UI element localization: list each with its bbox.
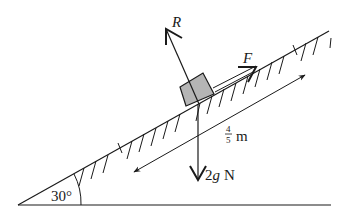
applied-force: F (213, 50, 256, 92)
angle-label: 30° (51, 188, 72, 204)
inclined-plane-diagram: 30° 4 5 m R F 2gN (0, 0, 339, 214)
distance-label: 4 5 m (225, 124, 248, 145)
svg-text:2gN: 2gN (205, 167, 235, 183)
svg-text:4: 4 (226, 124, 231, 134)
incline-surface (18, 31, 329, 205)
svg-text:5: 5 (226, 135, 231, 145)
svg-text:R: R (171, 14, 181, 30)
svg-text:F: F (242, 50, 253, 66)
svg-text:m: m (236, 128, 248, 144)
angle-arc (74, 174, 81, 205)
incline-hatching (79, 37, 331, 186)
block (180, 73, 214, 106)
